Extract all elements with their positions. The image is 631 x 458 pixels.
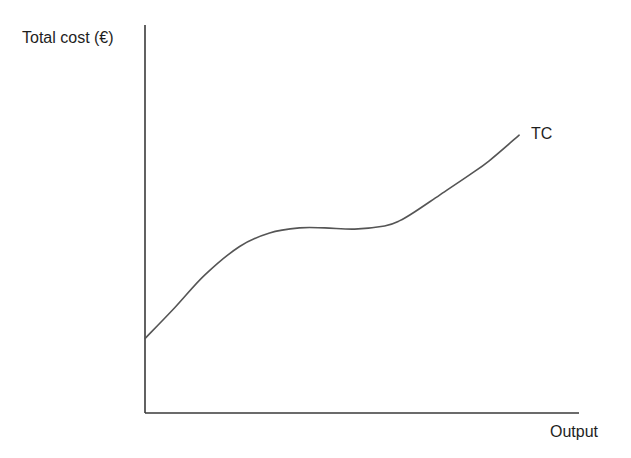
- x-axis-label: Output: [550, 423, 598, 441]
- chart-plot-area: [0, 0, 631, 458]
- total-cost-chart: Total cost (€) Output TC: [0, 0, 631, 458]
- tc-series-label: TC: [531, 125, 552, 143]
- tc-curve: [145, 135, 519, 338]
- y-axis-label: Total cost (€): [22, 29, 114, 47]
